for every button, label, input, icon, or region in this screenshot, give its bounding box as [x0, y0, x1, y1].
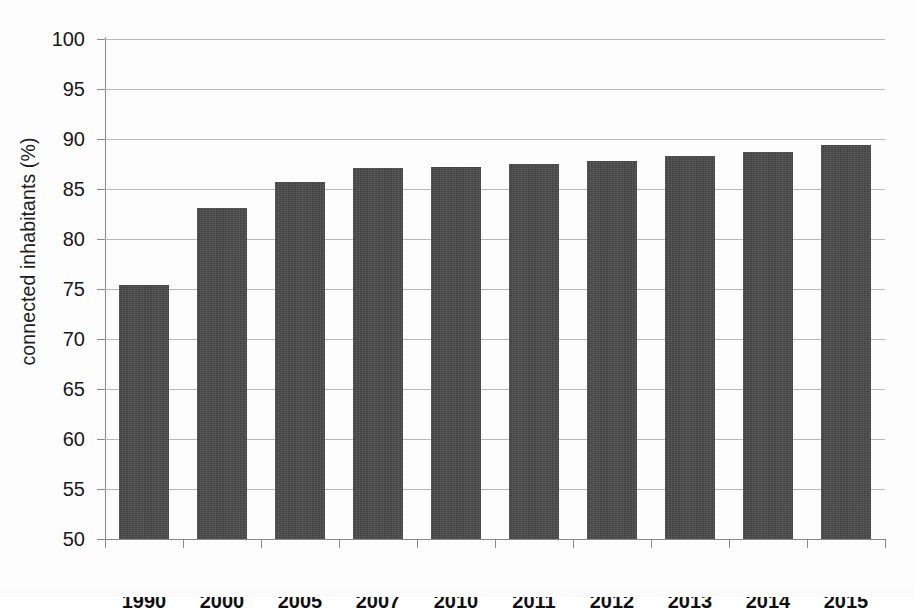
x-tick-mark: [183, 539, 184, 548]
gridline-90: [105, 139, 885, 140]
y-tick-label: 50: [29, 528, 85, 551]
y-tick-label: 55: [29, 478, 85, 501]
bar-1990: [119, 285, 169, 539]
bar-2007: [353, 168, 403, 539]
x-tick-mark: [339, 539, 340, 548]
y-tick-label: 85: [29, 178, 85, 201]
y-tick-label: 75: [29, 278, 85, 301]
y-tick-mark-65: [97, 389, 105, 390]
bar-2005: [275, 182, 325, 539]
y-tick-mark-60: [97, 439, 105, 440]
y-tick-label: 95: [29, 78, 85, 101]
y-tick-mark-75: [97, 289, 105, 290]
bar-2015: [821, 145, 871, 539]
y-tick-mark-85: [97, 189, 105, 190]
gridline-95: [105, 89, 885, 90]
x-tick-mark: [417, 539, 418, 548]
y-tick-label: 100: [29, 28, 85, 51]
y-tick-mark-80: [97, 239, 105, 240]
y-tick-mark-95: [97, 89, 105, 90]
x-tick-mark: [885, 539, 886, 548]
x-tick-mark: [261, 539, 262, 548]
page-bottom-edge: [0, 589, 915, 597]
y-tick-mark-50: [97, 539, 105, 540]
x-tick-mark: [573, 539, 574, 548]
bar-2010: [431, 167, 481, 539]
bar-2014: [743, 152, 793, 539]
y-tick-mark-70: [97, 339, 105, 340]
bar-2000: [197, 208, 247, 539]
y-tick-mark-90: [97, 139, 105, 140]
y-tick-label: 70: [29, 328, 85, 351]
x-tick-mark: [105, 539, 106, 548]
gridline-100: [105, 39, 885, 40]
bar-2011: [509, 164, 559, 539]
y-tick-label: 90: [29, 128, 85, 151]
bar-2012: [587, 161, 637, 539]
bar-2013: [665, 156, 715, 539]
y-tick-mark-100: [97, 39, 105, 40]
y-tick-label: 80: [29, 228, 85, 251]
x-tick-mark: [729, 539, 730, 548]
x-tick-mark: [807, 539, 808, 548]
plot-area: 5055606570758085909510019902000200520072…: [105, 39, 885, 539]
y-tick-label: 60: [29, 428, 85, 451]
x-tick-mark: [495, 539, 496, 548]
y-tick-mark-55: [97, 489, 105, 490]
x-tick-mark: [651, 539, 652, 548]
y-tick-label: 65: [29, 378, 85, 401]
